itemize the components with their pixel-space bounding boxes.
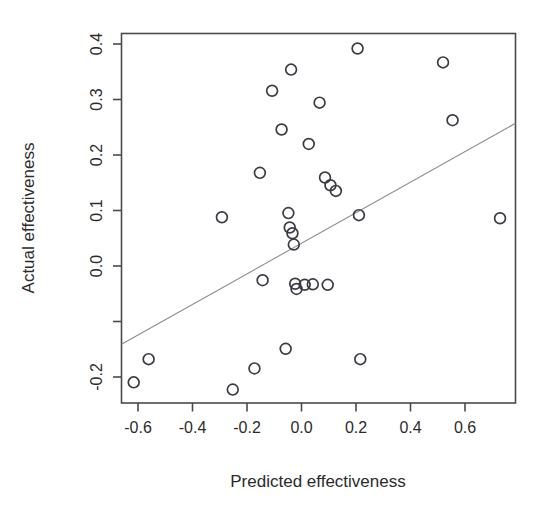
data-point	[438, 57, 449, 68]
data-point	[286, 64, 297, 75]
data-point	[307, 279, 318, 290]
data-point	[216, 212, 227, 223]
x-axis-title: Predicted effectiveness	[230, 472, 405, 491]
data-point	[283, 208, 294, 219]
x-tick-label-6: 0.6	[454, 419, 476, 436]
y-axis-tick-labels: 0.4 0.3 0.2 0.1 0.0 -0.2	[88, 33, 105, 391]
data-point	[143, 354, 154, 365]
x-axis-ticks	[138, 403, 465, 412]
data-point	[257, 275, 268, 286]
x-axis-tick-labels: -0.6 -0.4 -0.2 0.0 0.2 0.4 0.6	[124, 419, 476, 436]
data-point	[249, 363, 260, 374]
y-axis-title: Actual effectiveness	[19, 143, 38, 294]
scatter-points-group	[128, 43, 505, 395]
data-point	[267, 85, 278, 96]
data-point	[227, 384, 238, 395]
y-tick-label-1: 0.3	[88, 88, 105, 110]
data-point	[280, 343, 291, 354]
data-point	[254, 167, 265, 178]
data-point	[495, 213, 506, 224]
data-point	[276, 124, 287, 135]
data-point	[447, 115, 458, 126]
y-tick-label-4: 0.0	[88, 255, 105, 277]
x-tick-label-2: -0.2	[233, 419, 261, 436]
x-tick-label-1: -0.4	[179, 419, 207, 436]
x-tick-label-4: 0.2	[345, 419, 367, 436]
data-point	[288, 239, 299, 250]
data-point	[322, 279, 333, 290]
y-tick-label-5: -0.2	[88, 363, 105, 391]
data-point	[320, 172, 331, 183]
data-point	[128, 377, 139, 388]
y-tick-label-2: 0.2	[88, 144, 105, 166]
x-tick-label-5: 0.4	[399, 419, 421, 436]
y-tick-label-0: 0.4	[88, 33, 105, 55]
plot-canvas: 0.4 0.3 0.2 0.1 0.0 -0.2 -0.6 -0.4 -0.2 …	[0, 0, 544, 517]
regression-fit-line	[122, 123, 516, 344]
y-tick-label-3: 0.1	[88, 199, 105, 221]
scatter-plot-figure: 0.4 0.3 0.2 0.1 0.0 -0.2 -0.6 -0.4 -0.2 …	[0, 0, 544, 517]
data-point	[355, 354, 366, 365]
y-axis-ticks	[113, 44, 122, 377]
data-point	[303, 139, 314, 150]
x-tick-label-3: 0.0	[290, 419, 312, 436]
data-point	[352, 43, 363, 54]
plot-frame	[122, 34, 516, 404]
data-point	[314, 97, 325, 108]
x-tick-label-0: -0.6	[124, 419, 152, 436]
